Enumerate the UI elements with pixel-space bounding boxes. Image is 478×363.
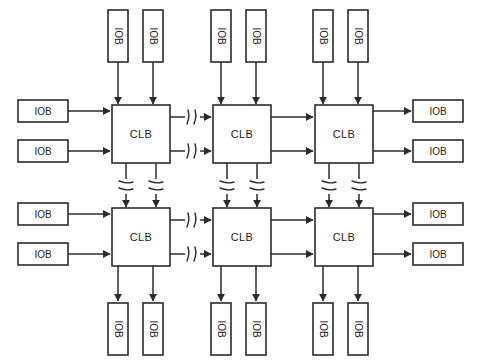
clb-label: CLB	[130, 231, 152, 243]
break-symbols-vertical	[119, 179, 366, 194]
iob-block-left: IOB	[18, 243, 68, 265]
clb-label: CLB	[333, 231, 355, 243]
iob-label: IOB	[429, 146, 447, 157]
wires-clb-to-right	[373, 111, 411, 254]
iob-block-top: IOB	[108, 10, 128, 62]
break-symbols-horizontal	[185, 110, 200, 261]
iob-block-top: IOB	[211, 10, 231, 62]
iob-label: IOB	[113, 320, 124, 338]
iob-label: IOB	[251, 320, 262, 338]
break-icon	[185, 247, 200, 261]
iob-block-right: IOB	[413, 140, 463, 162]
break-icon	[250, 179, 264, 194]
iob-label: IOB	[429, 106, 447, 117]
iob-label: IOB	[429, 209, 447, 220]
iob-block-bottom: IOB	[211, 303, 231, 355]
iob-block-bottom: IOB	[108, 303, 128, 355]
iob-label: IOB	[34, 209, 52, 220]
clb-block: CLB	[112, 208, 170, 266]
iob-label: IOB	[429, 249, 447, 260]
break-icon	[220, 179, 234, 194]
iob-label: IOB	[353, 320, 364, 338]
break-icon	[185, 213, 200, 227]
iob-label: IOB	[34, 106, 52, 117]
iob-block-left: IOB	[18, 203, 68, 225]
iob-block-bottom: IOB	[348, 303, 368, 355]
iob-block-right: IOB	[413, 203, 463, 225]
clb-block: CLB	[315, 208, 373, 266]
iob-label: IOB	[216, 27, 227, 45]
clb-label: CLB	[333, 128, 355, 140]
iob-label: IOB	[318, 27, 329, 45]
iob-label: IOB	[34, 146, 52, 157]
break-icon	[149, 179, 163, 194]
clb-label: CLB	[231, 231, 253, 243]
iob-label: IOB	[353, 27, 364, 45]
clb-block: CLB	[213, 208, 271, 266]
break-icon	[352, 179, 366, 194]
clb-label: CLB	[231, 128, 253, 140]
wires-row2-to-bottom	[118, 266, 358, 301]
break-icon	[185, 144, 200, 158]
clb-block: CLB	[112, 105, 170, 163]
iob-block-right: IOB	[413, 100, 463, 122]
iob-block-left: IOB	[18, 140, 68, 162]
iob-block-top: IOB	[246, 10, 266, 62]
iob-block-top: IOB	[143, 10, 163, 62]
iob-block-top: IOB	[348, 10, 368, 62]
iob-label: IOB	[251, 27, 262, 45]
iob-label: IOB	[216, 320, 227, 338]
break-icon	[119, 179, 133, 194]
fpga-architecture-diagram: CLB CLB CLB CLB CLB CLB IOB IOB	[0, 0, 478, 363]
iob-block-left: IOB	[18, 100, 68, 122]
iob-block-bottom: IOB	[313, 303, 333, 355]
iob-label: IOB	[318, 320, 329, 338]
wires-top-to-row1	[118, 62, 358, 104]
iob-label: IOB	[148, 27, 159, 45]
iob-block-right: IOB	[413, 243, 463, 265]
wires-col1-to-col2	[170, 117, 211, 254]
iob-label: IOB	[34, 249, 52, 260]
iob-block-bottom: IOB	[143, 303, 163, 355]
wires-col2-to-col3	[271, 117, 313, 254]
break-icon	[185, 110, 200, 124]
clb-block: CLB	[315, 105, 373, 163]
break-icon	[322, 179, 336, 194]
clb-label: CLB	[130, 128, 152, 140]
iob-label: IOB	[113, 27, 124, 45]
wires-left-to-clb	[68, 111, 110, 254]
fpga-diagram-canvas: CLB CLB CLB CLB CLB CLB IOB IOB	[0, 0, 478, 363]
iob-label: IOB	[148, 320, 159, 338]
iob-block-bottom: IOB	[246, 303, 266, 355]
clb-block: CLB	[213, 105, 271, 163]
iob-block-top: IOB	[313, 10, 333, 62]
